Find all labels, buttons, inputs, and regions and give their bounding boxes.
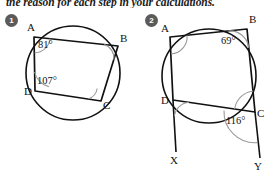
vertex-label-c-2: C (257, 108, 264, 119)
problem-1-panel: 1 A B C D 81° 107° (0, 0, 139, 171)
vertex-label-b-1: B (120, 33, 127, 44)
angle-value-a-1: 81° (38, 40, 53, 51)
angle-value-b-2: 69° (221, 36, 236, 47)
ray-label-y-2: Y (254, 161, 262, 171)
angle-value-d-1: 107° (37, 76, 57, 87)
quadrilateral-abcd-2 (170, 29, 255, 112)
vertex-label-d-2: D (161, 95, 169, 106)
circle-2 (162, 29, 256, 123)
problem-2-figure (139, 0, 278, 171)
vertex-label-a-2: A (161, 23, 169, 34)
problem-1-figure (0, 0, 139, 171)
vertex-label-a-1: A (27, 22, 35, 33)
angle-value-c-2: 116° (226, 116, 246, 127)
worksheet-page: the reason for each step in your calcula… (0, 0, 278, 171)
vertex-label-d-1: D (24, 86, 32, 97)
ray-label-x-2: X (170, 155, 178, 166)
vertex-label-c-1: C (103, 100, 110, 111)
problem-2-panel: 2 A B C D X Y 69° 1 (139, 0, 278, 171)
vertex-label-b-2: B (249, 14, 256, 25)
angle-arc-c-1 (88, 89, 97, 99)
